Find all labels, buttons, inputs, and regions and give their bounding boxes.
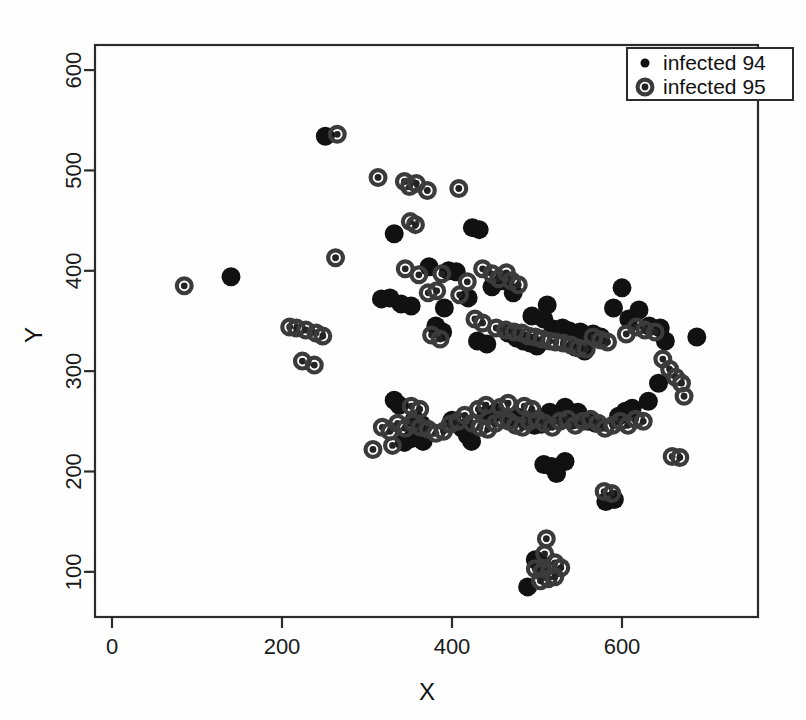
data-point-infected-95-core — [389, 442, 396, 449]
chart-legend: infected 94infected 95 — [627, 48, 793, 100]
y-tick-label: 500 — [61, 152, 86, 189]
legend-label-2: infected 95 — [663, 75, 766, 98]
data-point-infected-95-core — [543, 535, 550, 542]
data-point-infected-95-core — [416, 406, 423, 413]
data-point-infected-95-core — [412, 221, 419, 228]
data-point-infected-95-core — [505, 400, 512, 407]
data-point-infected-95-core — [332, 254, 339, 261]
data-point-infected-95-core — [678, 380, 685, 387]
data-point-infected-95-core — [652, 329, 659, 336]
data-point-infected-95-core — [181, 282, 188, 289]
data-point-infected-94 — [435, 298, 454, 317]
data-point-infected-94 — [630, 300, 649, 319]
chart-canvas: 0200400600 100200300400500600 X Y infect… — [0, 0, 806, 720]
x-tick-label: 200 — [264, 634, 301, 659]
data-point-infected-95-core — [299, 358, 306, 365]
y-tick-label: 100 — [61, 553, 86, 590]
data-point-infected-95-core — [604, 339, 611, 346]
data-point-infected-95-core — [402, 265, 409, 272]
data-point-infected-94 — [604, 298, 623, 317]
data-point-infected-94 — [477, 335, 496, 354]
data-point-infected-95-core — [456, 291, 463, 298]
y-tick-label: 400 — [61, 252, 86, 289]
legend-marker-infected-94 — [641, 59, 650, 68]
data-point-infected-95-core — [640, 418, 647, 425]
data-point-infected-95-core — [413, 180, 420, 187]
data-point-infected-95-core — [537, 577, 544, 584]
data-point-infected-95-core — [437, 336, 444, 343]
data-point-infected-95-core — [551, 573, 558, 580]
data-point-infected-95-core — [464, 278, 471, 285]
data-point-infected-95-core — [433, 287, 440, 294]
data-point-infected-95-core — [529, 406, 536, 413]
data-point-infected-95-core — [334, 131, 341, 138]
data-point-infected-95-core — [676, 454, 683, 461]
x-tick-label: 0 — [106, 634, 118, 659]
data-point-infected-94 — [222, 267, 241, 286]
data-point-infected-95-core — [415, 271, 422, 278]
data-point-infected-95-core — [608, 490, 615, 497]
data-point-infected-94 — [687, 328, 706, 347]
data-point-infected-95-core — [375, 174, 382, 181]
y-tick-label: 300 — [61, 353, 86, 390]
data-point-infected-95-core — [438, 270, 445, 277]
legend-label-1: infected 94 — [663, 51, 766, 74]
data-point-infected-95-core — [541, 550, 548, 557]
x-axis-ticks: 0200400600 — [106, 617, 640, 659]
y-axis-ticks: 100200300400500600 — [61, 52, 95, 590]
x-tick-label: 400 — [434, 634, 471, 659]
data-point-infected-94 — [470, 220, 489, 239]
data-point-infected-94 — [556, 452, 575, 471]
data-point-infected-95-core — [479, 320, 486, 327]
series-infected-95-points — [177, 127, 692, 588]
y-tick-label: 600 — [61, 52, 86, 89]
scatter-plot-figure: 0200400600 100200300400500600 X Y infect… — [0, 0, 806, 720]
x-tick-label: 600 — [604, 634, 641, 659]
data-point-infected-94 — [639, 392, 658, 411]
data-point-infected-94 — [385, 224, 404, 243]
data-point-infected-95-core — [455, 185, 462, 192]
data-point-infected-95-core — [424, 187, 431, 194]
data-point-infected-94 — [613, 278, 632, 297]
data-point-infected-95-core — [515, 281, 522, 288]
data-point-infected-94 — [538, 295, 557, 314]
data-point-infected-95-core — [483, 402, 490, 409]
data-point-infected-95-core — [681, 393, 688, 400]
data-point-infected-94 — [402, 296, 421, 315]
data-point-infected-94 — [656, 332, 675, 351]
legend-marker-infected-95-core — [642, 84, 649, 91]
data-point-infected-95-core — [311, 362, 318, 369]
data-point-infected-95-core — [583, 346, 590, 353]
data-point-infected-95-core — [319, 333, 326, 340]
y-tick-label: 200 — [61, 453, 86, 490]
data-point-infected-95-core — [370, 446, 377, 453]
y-axis-title: Y — [20, 327, 47, 343]
x-axis-title: X — [419, 678, 435, 705]
